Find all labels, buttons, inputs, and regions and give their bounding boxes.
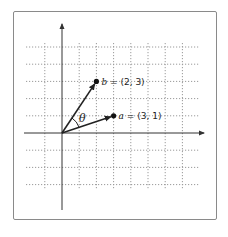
vector-b-point (94, 79, 99, 84)
vector-diagram: b = (2, 3)a = (3, 1) θ (0, 0, 228, 237)
vector-b-label: b = (2, 3) (101, 77, 144, 87)
vector-a-label: a = (3, 1) (119, 111, 162, 121)
angle-arc (72, 118, 79, 127)
vector-a-arrow (62, 117, 111, 133)
vector-a-point (111, 113, 116, 118)
angle-theta-label: θ (79, 112, 86, 125)
